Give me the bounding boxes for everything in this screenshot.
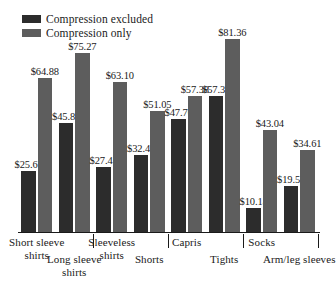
bar-group: $47.70$57.38 [168,18,206,232]
bar: $47.70 [171,119,186,232]
x-axis-label-arm-leg-sleeves: Arm/leg sleeves [262,253,336,266]
axis-tick [318,234,319,248]
bar: $34.61 [300,150,315,232]
bar: $63.10 [113,82,128,232]
x-axis-category-labels: Short sleeve shirtsLong sleeve shirtsSle… [0,233,329,298]
bar: $19.51 [284,186,299,232]
bar-group: $32.41$51.05 [131,18,169,232]
bar-group: $57.38$81.36 [206,18,244,232]
bar-group: $45.81$75.27 [56,18,94,232]
bar: $57.38 [209,96,224,232]
bar-group: $10.14$43.04 [243,18,281,232]
x-axis-label-socks: Socks [225,236,299,249]
bar: $75.27 [75,53,90,232]
bar: $51.05 [150,111,165,232]
bar-group: $19.51$34.61 [281,18,319,232]
bar: $81.36 [225,39,240,232]
bar: $32.41 [134,155,149,232]
bar: $27.42 [96,167,111,232]
axis-tick [168,234,169,248]
plot-area: $25.67$64.88$45.81$75.27$27.42$63.10$32.… [18,18,318,232]
bar: $25.67 [21,171,36,232]
bar: $64.88 [38,78,53,232]
bar: $10.14 [246,208,261,232]
x-axis-label-shorts: Shorts [112,253,186,266]
bar-value-label: $34.61 [293,138,321,149]
x-axis-label-capris: Capris [150,236,224,249]
bar: $45.81 [59,123,74,232]
bar: $43.04 [263,130,278,232]
axis-tick [243,234,244,248]
bar: $57.38 [188,96,203,232]
x-axis-label-tights: Tights [187,253,261,266]
bar-group: $25.67$64.88 [18,18,56,232]
axis-tick [93,234,94,248]
bar-group: $27.42$63.10 [93,18,131,232]
